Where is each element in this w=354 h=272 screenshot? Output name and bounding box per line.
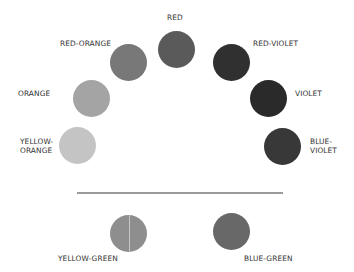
label-red-orange: RED-ORANGE	[60, 39, 111, 48]
color-wheel-diagram: RED RED-ORANGE ORANGE YELLOW- ORANGE RED…	[0, 0, 354, 272]
label-blue-green: BLUE-GREEN	[244, 254, 293, 263]
swatch-orange	[73, 80, 110, 117]
label-red: RED	[167, 13, 183, 22]
divider-line	[77, 192, 283, 194]
swatch-red	[158, 31, 195, 68]
label-red-violet: RED-VIOLET	[253, 39, 298, 48]
swatch-violet	[250, 80, 287, 117]
swatch-red-violet	[213, 44, 250, 81]
swatch-yellow-green	[110, 215, 147, 252]
swatch-blue-violet	[264, 128, 301, 165]
label-yellow-orange-line2: ORANGE	[20, 146, 52, 155]
label-yellow-green: YELLOW-GREEN	[58, 254, 118, 263]
label-blue-violet-line2: VIOLET	[310, 146, 337, 155]
label-blue-violet-line1: BLUE-	[310, 137, 332, 146]
swatch-split-line	[129, 215, 130, 252]
label-violet: VIOLET	[295, 89, 322, 98]
swatch-blue-green	[213, 213, 250, 250]
label-yellow-orange-line1: YELLOW-	[20, 137, 53, 146]
label-orange: ORANGE	[18, 89, 50, 98]
swatch-yellow-orange	[59, 127, 96, 164]
swatch-red-orange	[110, 44, 147, 81]
